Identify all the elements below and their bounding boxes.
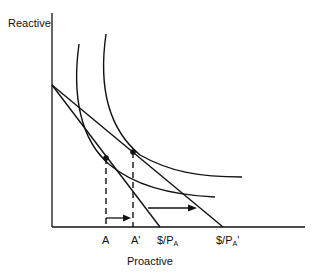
- budget-line-new: [52, 85, 223, 227]
- tick-label-budget1-main: $/P: [157, 234, 174, 246]
- shift-arrow-head-icon: [123, 215, 131, 222]
- tick-label-budget1: $/PA: [157, 235, 178, 247]
- tick-label-budget1-sub: A: [174, 240, 179, 247]
- tick-label-budget2: $/PA': [216, 235, 239, 247]
- tick-label-budget2-prime: ': [237, 234, 239, 246]
- point-A: [103, 155, 109, 161]
- tick-label-A: A: [102, 235, 109, 246]
- indifference-curve-higher: [104, 34, 242, 177]
- tick-label-A-prime: A': [131, 235, 140, 246]
- point-A-prime: [130, 149, 136, 155]
- y-axis-label: Reactive: [8, 18, 51, 29]
- x-axis-label: Proactive: [127, 256, 173, 267]
- budget-shift-arrow-head-icon: [188, 205, 197, 212]
- tick-label-budget2-main: $/P: [216, 234, 233, 246]
